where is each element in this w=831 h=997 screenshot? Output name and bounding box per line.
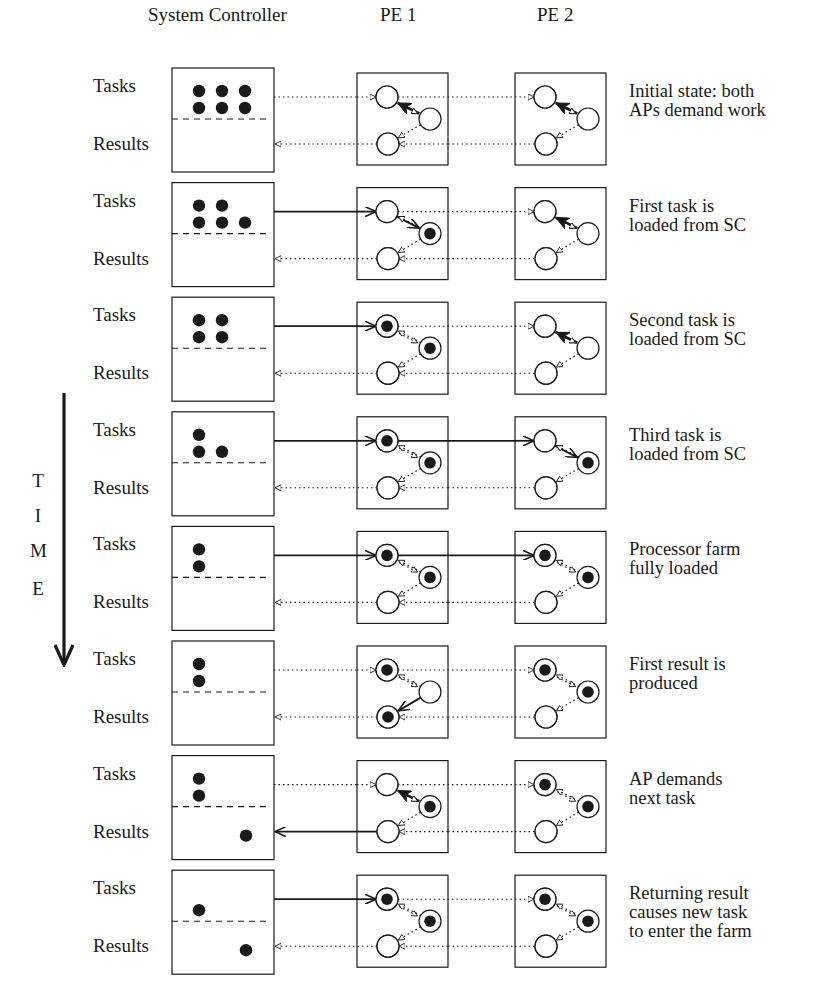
task-token (216, 331, 228, 343)
output-buffer-node (535, 706, 557, 728)
tasks-label: Tasks (93, 190, 136, 212)
task-token (239, 216, 251, 228)
task-token (193, 216, 205, 228)
tasks-label: Tasks (93, 533, 136, 555)
task-token (193, 658, 205, 670)
task-token (193, 675, 205, 687)
input-buffer-node (376, 86, 398, 108)
tasks-label: Tasks (93, 304, 136, 326)
time-letter: T (30, 470, 46, 492)
task-token (424, 572, 436, 584)
step-description: Second task is loaded from SC (629, 311, 746, 349)
pe1 (357, 73, 448, 165)
input-buffer-node (534, 201, 556, 223)
task-token (424, 801, 436, 813)
input-buffer-node (534, 315, 556, 337)
step-description: AP demands next task (629, 770, 722, 808)
task-token (216, 314, 228, 326)
step-description: Initial state: both APs demand work (629, 82, 766, 120)
pe2 (515, 73, 606, 165)
results-label: Results (93, 248, 149, 270)
task-token (216, 199, 228, 211)
system-controller-box (172, 526, 274, 630)
time-step-row (172, 297, 606, 401)
results-label: Results (93, 706, 149, 728)
pe2 (515, 188, 606, 280)
time-step-row (172, 183, 606, 287)
worker-node (419, 108, 441, 130)
task-token (216, 446, 228, 458)
task-token (193, 560, 205, 572)
output-buffer-node (377, 362, 399, 384)
task-token (381, 435, 393, 447)
task-token (582, 686, 594, 698)
time-step-row (172, 68, 606, 172)
task-token (193, 314, 205, 326)
task-token (539, 893, 551, 905)
task-token (193, 446, 205, 458)
task-token (424, 342, 436, 354)
step-description: Returning result causes new task to ente… (629, 884, 752, 941)
task-token (193, 904, 205, 916)
worker-node (577, 337, 599, 359)
task-token (424, 228, 436, 240)
input-buffer-node (376, 201, 398, 223)
task-token (193, 543, 205, 555)
task-token (424, 457, 436, 469)
task-token (216, 85, 228, 97)
step-description: First result is produced (629, 655, 726, 693)
task-token (539, 550, 551, 562)
task-token (239, 102, 251, 114)
time-step-row (172, 756, 606, 860)
pe1 (357, 531, 448, 623)
pe1 (357, 302, 448, 394)
task-token (424, 915, 436, 927)
task-token (582, 915, 594, 927)
output-buffer-node (535, 248, 557, 270)
task-token (193, 331, 205, 343)
input-buffer-node (376, 774, 398, 796)
task-token (193, 85, 205, 97)
output-buffer-node (377, 477, 399, 499)
output-buffer-node (535, 477, 557, 499)
task-token (193, 429, 205, 441)
input-buffer-node (534, 86, 556, 108)
results-label: Results (93, 133, 149, 155)
output-buffer-node (535, 935, 557, 957)
result-token (240, 944, 252, 956)
task-token (216, 216, 228, 228)
tasks-label: Tasks (93, 648, 136, 670)
output-buffer-node (535, 591, 557, 613)
output-buffer-node (535, 362, 557, 384)
system-controller-box (172, 412, 274, 516)
pe2 (515, 531, 606, 623)
output-buffer-node (377, 591, 399, 613)
output-buffer-node (535, 133, 557, 155)
pe2 (515, 875, 606, 967)
tasks-label: Tasks (93, 419, 136, 441)
task-token (382, 711, 394, 723)
worker-node (577, 108, 599, 130)
system-controller-box (172, 870, 274, 974)
results-label: Results (93, 362, 149, 384)
results-label: Results (93, 935, 149, 957)
result-token (240, 829, 252, 841)
pe1 (357, 761, 448, 853)
system-controller-box (172, 756, 274, 860)
results-label: Results (93, 477, 149, 499)
input-buffer-node (534, 430, 556, 452)
time-letter: I (30, 505, 46, 527)
system-controller-box (172, 183, 274, 287)
step-description: Third task is loaded from SC (629, 426, 746, 464)
worker-node (419, 681, 441, 703)
task-token (582, 801, 594, 813)
system-controller-box (172, 641, 274, 745)
pe2 (515, 646, 606, 738)
task-token (381, 893, 393, 905)
time-step-row (172, 526, 606, 630)
tasks-label: Tasks (93, 763, 136, 785)
system-controller-box (172, 68, 274, 172)
task-token (193, 102, 205, 114)
task-token (381, 550, 393, 562)
output-buffer-node (377, 248, 399, 270)
